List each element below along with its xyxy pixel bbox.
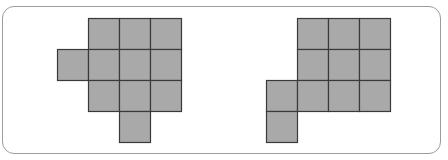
grid-cell <box>267 112 298 143</box>
grid-cell <box>360 81 391 112</box>
grid-cell <box>151 19 182 50</box>
left-figure <box>58 19 182 143</box>
grid-cell <box>120 50 151 81</box>
figures-layer <box>0 0 448 160</box>
grid-cell <box>120 81 151 112</box>
diagram-canvas <box>0 0 448 160</box>
grid-cell <box>298 50 329 81</box>
grid-cell <box>89 50 120 81</box>
grid-cell <box>360 50 391 81</box>
grid-cell <box>120 19 151 50</box>
grid-cell <box>120 112 151 143</box>
grid-cell <box>89 19 120 50</box>
grid-cell <box>298 81 329 112</box>
grid-cell <box>267 81 298 112</box>
grid-cell <box>329 50 360 81</box>
grid-cell <box>298 19 329 50</box>
grid-cell <box>58 50 89 81</box>
grid-cell <box>329 81 360 112</box>
grid-cell <box>151 50 182 81</box>
grid-cell <box>151 81 182 112</box>
grid-cell <box>329 19 360 50</box>
right-figure <box>267 19 391 143</box>
grid-cell <box>360 19 391 50</box>
grid-cell <box>89 81 120 112</box>
